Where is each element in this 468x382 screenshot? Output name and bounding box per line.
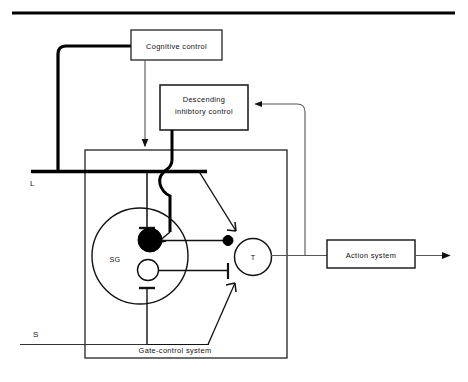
descending-inhibitory-fiber [160, 130, 172, 232]
t-cell-label: T [251, 253, 256, 262]
sg-circle [92, 208, 188, 304]
gate-control-system-label: Gate-control system [139, 346, 212, 355]
descending-inhibitory-control-label-line1: Descending [183, 95, 226, 104]
cognitive-control-box: Cognitive control [131, 30, 222, 60]
t-cell-input-terminal [223, 236, 233, 246]
cognitive-control-label: Cognitive control [146, 42, 207, 51]
sg-excitatory-neuron [138, 228, 162, 252]
small-fiber-label: S [33, 330, 39, 339]
small-fiber-branch-to-t-cell [208, 283, 236, 345]
large-fiber-branch-to-t-cell [199, 172, 236, 232]
action-system-label: Action system [346, 251, 397, 260]
gate-control-diagram: Cognitive control Descending inhibtory c… [0, 0, 468, 382]
action-system-box: Action system [327, 240, 415, 268]
sg-label: SG [110, 255, 121, 264]
large-fiber-label: L [30, 179, 35, 188]
diagram-canvas: Cognitive control Descending inhibtory c… [0, 0, 468, 382]
descending-inhibitory-control-box: Descending inhibtory control [160, 85, 248, 130]
sg-inhibitory-neuron [138, 260, 159, 281]
descending-inhibitory-control-label-line2: inhibtory control [175, 107, 233, 116]
descending-feedback-loop [255, 104, 305, 256]
cognitive-control-to-large-fiber-link [58, 46, 131, 172]
